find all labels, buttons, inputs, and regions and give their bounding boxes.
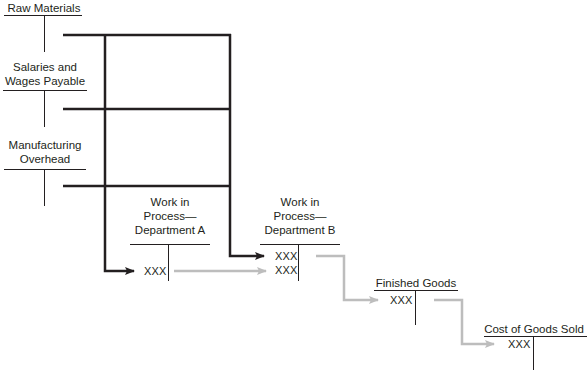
label-wip-a: Work in Process— Department A [125, 195, 215, 237]
amount-wip-b-debit-2: XXX [275, 264, 298, 277]
amount-wip-a-debit: XXX [144, 265, 167, 278]
label-manufacturing-overhead: Manufacturing Overhead [0, 138, 90, 166]
label-line: Department A [125, 223, 215, 237]
t-account-wip-a [130, 245, 210, 282]
label-salaries-wages: Salaries and Wages Payable [0, 60, 90, 88]
label-wip-b: Work in Process— Department B [255, 195, 345, 237]
label-raw-materials: Raw Materials [4, 1, 84, 15]
t-account-manufacturing-overhead [4, 170, 86, 207]
transfer-flow-lines [174, 256, 494, 344]
flow-diagram-canvas [0, 0, 587, 375]
label-line: Process— [125, 209, 215, 223]
amount-cogs-debit: XXX [508, 338, 531, 351]
label-line: Department B [255, 223, 345, 237]
amount-finished-goods-debit: XXX [390, 294, 413, 307]
arrow-wip-b-to-finished-goods [316, 256, 378, 300]
label-finished-goods: Finished Goods [372, 276, 460, 290]
t-account-finished-goods [374, 291, 458, 326]
label-line: Process— [255, 209, 345, 223]
label-line: Work in [255, 195, 345, 209]
label-cogs: Cost of Goods Sold [481, 322, 587, 336]
t-account-cogs [484, 337, 587, 371]
label-line: Wages Payable [0, 74, 90, 88]
amount-wip-b-debit-1: XXX [275, 250, 298, 263]
label-line: Manufacturing [0, 138, 90, 152]
label-line: Finished Goods [372, 276, 460, 290]
label-line: Salaries and [0, 60, 90, 74]
label-line: Overhead [0, 152, 90, 166]
label-line: Raw Materials [4, 1, 84, 15]
t-account-wip-b [260, 245, 340, 282]
label-line: Work in [125, 195, 215, 209]
label-line: Cost of Goods Sold [481, 322, 587, 336]
